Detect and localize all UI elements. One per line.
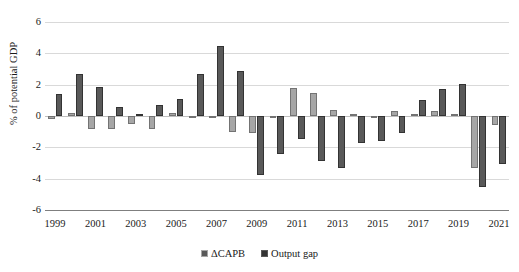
bar-slot — [408, 22, 428, 210]
bar-slot — [146, 22, 166, 210]
bar-capb-2014 — [350, 114, 357, 116]
legend-item-capb[interactable]: ΔCAPB — [201, 248, 245, 259]
x-axis-line — [45, 210, 509, 211]
x-axis-tick-label: 2009 — [246, 218, 267, 230]
bar-slot — [287, 22, 307, 210]
y-axis-tick-label: -6 — [11, 205, 41, 215]
bar-capb-1999 — [48, 116, 55, 119]
bar-group-2004 — [146, 22, 166, 210]
y-axis-tick-label: -4 — [11, 174, 41, 184]
bar-slot — [469, 22, 489, 210]
bar-output-gap-2003 — [136, 114, 143, 116]
bar-output-gap-2011 — [298, 116, 305, 139]
x-axis-tick-label: 2015 — [367, 218, 388, 230]
x-axis-tick-label: 2007 — [206, 218, 227, 230]
y-axis-tick-label: 2 — [11, 80, 41, 90]
bar-output-gap-2020 — [479, 116, 486, 187]
bar-slot — [448, 22, 468, 210]
bar-capb-2010 — [270, 116, 277, 118]
bar-slot — [186, 22, 206, 210]
bar-capb-2012 — [310, 93, 317, 117]
bar-output-gap-2007 — [217, 46, 224, 116]
bar-capb-2008 — [229, 116, 236, 132]
bar-capb-2000 — [68, 113, 75, 116]
bar-slot — [227, 22, 247, 210]
bar-output-gap-2008 — [237, 71, 244, 116]
bar-slot — [206, 22, 226, 210]
bar-capb-2003 — [128, 116, 135, 124]
bar-capb-2009 — [249, 116, 256, 133]
bar-output-gap-2002 — [116, 107, 123, 116]
bar-group-2016 — [388, 22, 408, 210]
bar-output-gap-2015 — [378, 116, 385, 141]
bar-output-gap-2019 — [459, 84, 466, 116]
y-axis-tick-label: 4 — [11, 48, 41, 58]
bar-group-2011 — [287, 22, 307, 210]
legend-item-output-gap[interactable]: Output gap — [261, 248, 318, 259]
bar-group-1999 — [45, 22, 65, 210]
bar-capb-2016 — [391, 111, 398, 116]
bar-slot — [166, 22, 186, 210]
bar-output-gap-2017 — [419, 100, 426, 116]
bar-capb-2017 — [411, 114, 418, 116]
bar-group-2006 — [186, 22, 206, 210]
x-axis-tick-label: 2001 — [85, 218, 106, 230]
x-axis: 1999200120032005200720092011201320152017… — [45, 212, 509, 234]
bar-group-2017 — [408, 22, 428, 210]
plot-area — [45, 22, 509, 210]
bar-group-2002 — [106, 22, 126, 210]
bar-group-2018 — [428, 22, 448, 210]
bar-group-2014 — [348, 22, 368, 210]
bar-output-gap-2018 — [439, 89, 446, 116]
bar-slot — [65, 22, 85, 210]
bar-group-2007 — [206, 22, 226, 210]
bar-group-2001 — [85, 22, 105, 210]
bar-capb-2007 — [209, 116, 216, 118]
bar-capb-2019 — [451, 114, 458, 116]
bar-capb-2020 — [471, 116, 478, 168]
bar-group-2020 — [469, 22, 489, 210]
legend-swatch-icon — [201, 250, 208, 257]
bar-output-gap-2009 — [257, 116, 264, 175]
x-axis-tick-label: 2021 — [488, 218, 509, 230]
bar-group-2019 — [448, 22, 468, 210]
bar-group-2003 — [126, 22, 146, 210]
legend-label: Output gap — [271, 248, 318, 259]
y-axis: 6420-2-4-6 — [6, 22, 41, 210]
bar-output-gap-2016 — [399, 116, 406, 133]
bar-slot — [267, 22, 287, 210]
bar-capb-2006 — [189, 116, 196, 118]
y-axis-tick-label: -2 — [11, 142, 41, 152]
bar-group-2013 — [327, 22, 347, 210]
bar-slot — [247, 22, 267, 210]
bar-output-gap-1999 — [56, 94, 63, 116]
bar-group-2000 — [65, 22, 85, 210]
bar-group-2005 — [166, 22, 186, 210]
bar-slot — [428, 22, 448, 210]
x-axis-tick-label: 2003 — [125, 218, 146, 230]
bar-group-2021 — [489, 22, 509, 210]
chart-legend: ΔCAPBOutput gap — [0, 248, 519, 259]
bar-capb-2005 — [169, 113, 176, 116]
y-axis-tick-label: 6 — [11, 17, 41, 27]
bar-output-gap-2004 — [156, 105, 163, 116]
x-axis-tick-label: 2005 — [166, 218, 187, 230]
x-axis-tick-label: 2013 — [327, 218, 348, 230]
x-axis-tick-label: 1999 — [45, 218, 66, 230]
bar-output-gap-2012 — [318, 116, 325, 161]
bar-group-2010 — [267, 22, 287, 210]
bar-output-gap-2005 — [177, 99, 184, 116]
bar-output-gap-2001 — [96, 87, 103, 116]
bar-slot — [327, 22, 347, 210]
x-axis-tick-label: 2017 — [408, 218, 429, 230]
y-axis-tick-label: 0 — [11, 111, 41, 121]
bar-output-gap-2021 — [499, 116, 506, 164]
bar-slot — [307, 22, 327, 210]
bar-capb-2018 — [431, 111, 438, 116]
bar-output-gap-2006 — [197, 74, 204, 116]
bar-slot — [126, 22, 146, 210]
bar-group-2015 — [368, 22, 388, 210]
bar-slot — [85, 22, 105, 210]
x-axis-tick-label: 2011 — [287, 218, 308, 230]
bar-capb-2021 — [492, 116, 499, 125]
